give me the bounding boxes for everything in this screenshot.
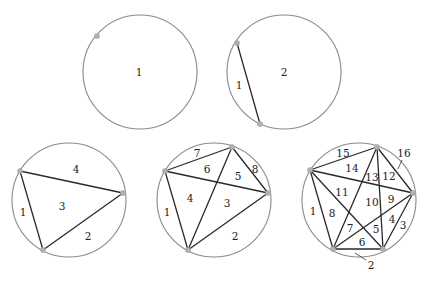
region-label: 10 xyxy=(365,196,378,208)
panel-3-points: 1234 xyxy=(12,143,126,257)
region-label: 7 xyxy=(194,147,201,159)
region-label: 3 xyxy=(400,219,407,231)
circle-point xyxy=(229,144,234,149)
circle-point xyxy=(40,247,45,252)
region-label: 1 xyxy=(164,206,171,218)
region-label: 1 xyxy=(310,205,317,217)
region-label: 4 xyxy=(73,163,80,175)
circle-point xyxy=(257,121,262,126)
region-label: 13 xyxy=(365,171,378,183)
chord-line xyxy=(20,171,123,193)
region-label: 4 xyxy=(389,213,396,225)
region-label: 15 xyxy=(336,147,349,159)
circle-point xyxy=(17,168,22,173)
circle-point xyxy=(120,190,125,195)
leader-line-16 xyxy=(398,160,402,169)
region-label: 16 xyxy=(397,147,411,159)
diagram-canvas: 11212341234567812345678910111213141516 xyxy=(0,0,425,281)
panel-1-points: 1 xyxy=(83,15,197,129)
region-label: 1 xyxy=(20,206,27,218)
circle-point xyxy=(380,246,385,251)
panel-2-points: 12 xyxy=(227,15,341,129)
region-label: 7 xyxy=(347,222,354,234)
panel-4-points: 12345678 xyxy=(157,143,271,257)
circle-point xyxy=(374,144,379,149)
region-label: 11 xyxy=(335,186,348,198)
region-label: 5 xyxy=(235,170,242,182)
circle-point xyxy=(265,190,270,195)
region-label: 1 xyxy=(236,79,243,91)
region-label: 2 xyxy=(232,230,239,242)
region-label: 6 xyxy=(359,236,366,248)
region-label: 9 xyxy=(388,193,395,205)
region-label: 3 xyxy=(224,197,231,209)
region-label: 14 xyxy=(345,162,359,174)
circle-point xyxy=(234,40,239,45)
region-label: 1 xyxy=(136,66,143,78)
region-label: 2 xyxy=(368,259,375,271)
circle-point xyxy=(410,190,415,195)
circle-point xyxy=(330,246,335,251)
region-label: 12 xyxy=(382,170,395,182)
chord-line xyxy=(43,193,123,250)
panel-5-points: 12345678910111213141516 xyxy=(302,143,416,271)
region-label: 2 xyxy=(85,230,92,242)
region-label: 5 xyxy=(373,223,380,235)
region-label: 8 xyxy=(252,163,259,175)
circle-point xyxy=(185,247,190,252)
circle-point xyxy=(94,33,99,38)
circle-point xyxy=(162,168,167,173)
region-label: 6 xyxy=(204,163,211,175)
region-label: 8 xyxy=(329,207,336,219)
circle-division-diagram: 11212341234567812345678910111213141516 xyxy=(0,0,425,281)
region-label: 4 xyxy=(187,192,194,204)
region-label: 3 xyxy=(59,200,66,212)
circle-point xyxy=(307,167,312,172)
region-label: 2 xyxy=(281,66,288,78)
